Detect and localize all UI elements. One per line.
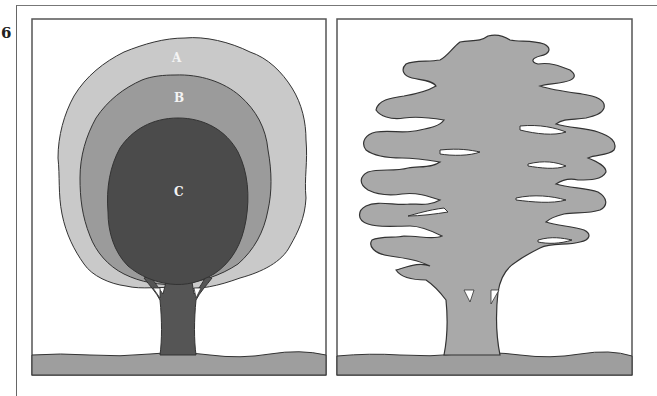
crown-zone-c (108, 118, 248, 285)
zone-a-label: A (171, 51, 182, 65)
left-panel: A B C (32, 19, 326, 375)
zone-c-label: C (174, 185, 184, 199)
right-panel (337, 19, 632, 375)
zone-b-label: B (174, 91, 184, 105)
